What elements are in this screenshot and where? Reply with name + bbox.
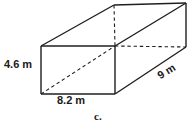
- right-face-edges: [115, 3, 186, 94]
- dimension-label-width: 8.2 m: [57, 94, 85, 106]
- edge-hidden-bottom-left-receding: [41, 46, 115, 94]
- edge-top-left-receding: [41, 5, 114, 46]
- edge-hidden-back-bottom: [115, 46, 186, 47]
- top-face-edges: [41, 3, 186, 46]
- edge-top-back: [114, 3, 186, 5]
- hidden-edges: [41, 5, 186, 94]
- dimension-label-height: 4.6 m: [4, 58, 32, 70]
- edge-top-right-receding: [115, 3, 186, 46]
- edge-hidden-back-left-vertical: [114, 5, 115, 46]
- figure-container: 4.6 m 8.2 m 9 m c.: [0, 0, 193, 125]
- part-label: c.: [94, 110, 102, 122]
